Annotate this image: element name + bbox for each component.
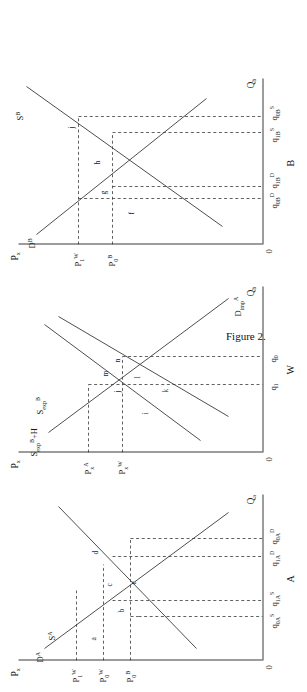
figure-page: Px Qa 0 DA SA P1W P0W P0B xyxy=(0,0,307,692)
panel-w-quantity-tick-0: q1 xyxy=(268,383,279,390)
figure-rotated-canvas: Px Qa 0 DA SA P1W P0W P0B xyxy=(0,0,307,692)
panel-a-quantity-tick-1: q1AS xyxy=(268,591,281,606)
panel-b-quantity-tick-0: q0BD xyxy=(268,192,281,208)
panel-a-guides xyxy=(0,488,307,684)
panel-b-area-f: f xyxy=(126,212,135,215)
panel-w-area-n: n xyxy=(112,358,121,362)
panel-b-origin-label: 0 xyxy=(264,249,273,253)
panel-w-price-tick-0: PxA xyxy=(82,462,95,474)
panel-w-name: W xyxy=(284,365,295,374)
panel-b-area-j: j xyxy=(66,126,75,128)
panel-b-area-h: h xyxy=(92,160,101,164)
panel-b-price-axis-label: Px xyxy=(10,252,21,260)
panel-b-quantity-tick-1: q1BD xyxy=(268,172,281,188)
figure-caption: Figure 2. xyxy=(226,330,266,342)
panel-w-price-axis-label: Px xyxy=(10,460,21,468)
panel-w-demand-label: DimpA xyxy=(232,296,245,316)
panel-a-supply-label: SA xyxy=(46,631,56,640)
panel-a-price-tick-0: P1W xyxy=(70,669,83,682)
panel-b-guides xyxy=(0,72,307,268)
panel-a-quantity-tick-2: q1AD xyxy=(268,550,281,566)
panel-b-area-g: g xyxy=(98,190,107,194)
panel-b-supply-label: SB xyxy=(14,111,24,120)
panel-b-quantity-tick-3: q0BS xyxy=(268,105,281,120)
panel-a-quantity-tick-0: q0AS xyxy=(268,613,281,628)
panel-a-area-a: a xyxy=(88,637,97,640)
panel-w-origin-label: 0 xyxy=(264,457,273,461)
panel-w-supply-label: SexpB xyxy=(34,397,47,414)
panel-a-quantity-axis-label: Qa xyxy=(246,494,257,504)
panel-b-name: B xyxy=(284,159,295,166)
panel-a-name: A xyxy=(284,575,295,582)
panel-b-quantity-tick-2: q1BS xyxy=(268,127,281,142)
panel-b: Px Qb 0 SB DB P1W P0B q0BD q1BD xyxy=(0,72,307,268)
panel-w-area-m: m xyxy=(100,370,109,376)
panel-b-quantity-axis-label: Qb xyxy=(246,78,257,88)
panel-w-area-k: k xyxy=(160,388,169,392)
panel-b-price-tick-0: P1W xyxy=(72,253,85,266)
panel-w-price-tick-1: PxW xyxy=(116,461,129,474)
panel-w-guides xyxy=(0,280,307,476)
panel-w-supply-h-label: SexpB+H xyxy=(28,428,41,456)
panel-a-area-e: e xyxy=(128,581,137,584)
panel-a-origin-label: 0 xyxy=(264,665,273,669)
panel-a-demand-label: DA xyxy=(34,652,44,662)
panel-a-quantity-tick-3: q0AD xyxy=(268,528,281,544)
panel-w-quantity-axis-label: Qb xyxy=(246,286,257,296)
panel-a-area-d: d xyxy=(90,550,99,554)
panel-w-area-l: l xyxy=(132,376,141,378)
panel-b-demand-label: DB xyxy=(26,238,36,248)
panel-a-price-tick-1: P0W xyxy=(97,669,110,682)
panel-a-area-b: b xyxy=(116,608,125,612)
panel-w-area-i: i xyxy=(140,412,149,414)
panel-a-area-c: c xyxy=(104,583,113,586)
panel-b-price-tick-1: P0B xyxy=(106,254,119,266)
panel-a: Px Qa 0 DA SA P1W P0W P0B xyxy=(0,488,307,684)
panel-a-price-axis-label: Px xyxy=(10,668,21,676)
panel-a-price-tick-2: P0B xyxy=(124,670,137,682)
panel-w: Px Qb 0 SexpB+H SexpB DimpA PxA PxW q xyxy=(0,280,307,476)
panel-w-quantity-tick-1: q0 xyxy=(268,355,279,362)
panel-w-area-j: j xyxy=(112,390,121,392)
